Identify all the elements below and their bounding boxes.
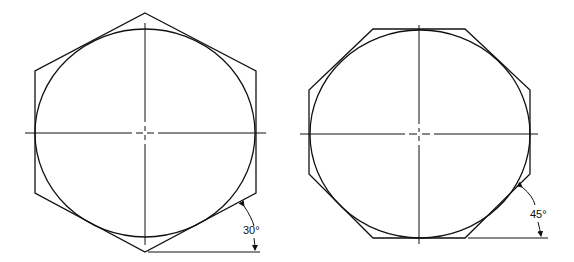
- angle-label-30: 30°: [243, 224, 260, 236]
- angle-label-45: 45°: [530, 208, 547, 220]
- center-lines: [25, 23, 266, 245]
- angle-arc: [244, 206, 254, 226]
- octagon-figure: [300, 25, 548, 244]
- drawing-canvas: 30° 45°: [0, 0, 574, 262]
- angle-arc: [522, 187, 535, 205]
- hexagon-figure: [25, 13, 266, 252]
- center-lines: [300, 25, 538, 244]
